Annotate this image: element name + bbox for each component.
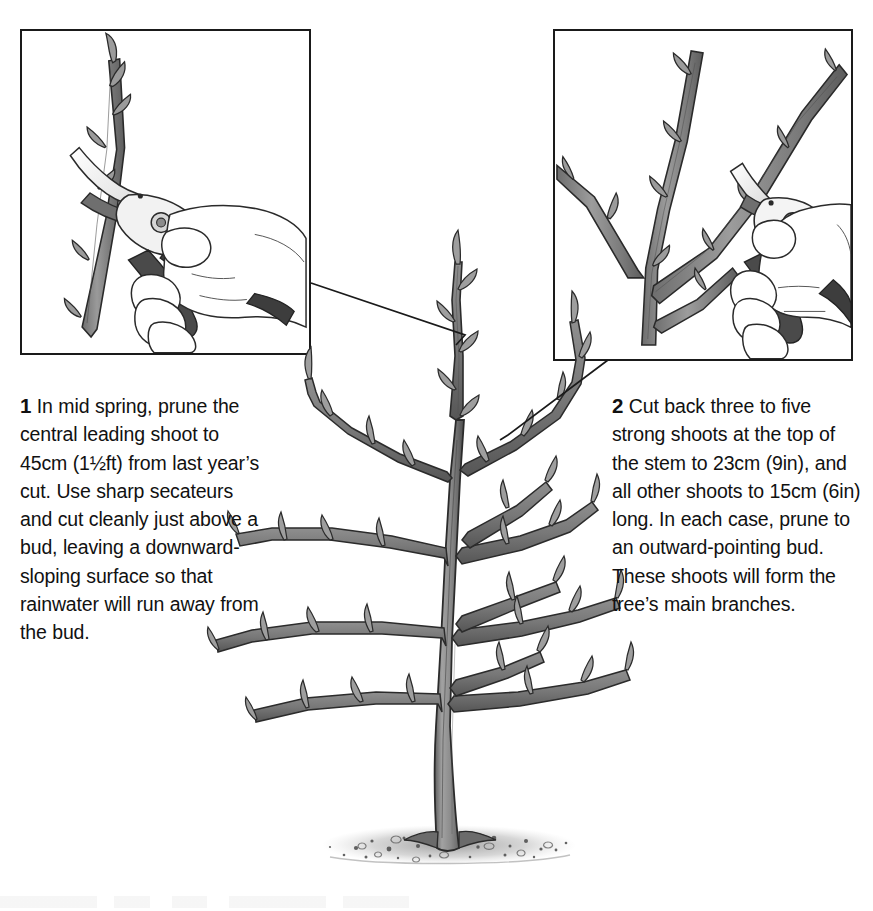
caption-step-2-number: 2 bbox=[612, 394, 623, 417]
caption-step-2: 2 Cut back three to five strong shoots a… bbox=[612, 392, 864, 618]
trunk bbox=[404, 420, 496, 851]
caption-step-1: 1 In mid spring, prune the central leadi… bbox=[20, 392, 270, 647]
left-lateral-branch bbox=[557, 165, 644, 277]
leader-line-left bbox=[311, 283, 465, 345]
lateral-branches bbox=[216, 320, 630, 722]
soil-mulch bbox=[322, 825, 576, 865]
caption-step-1-number: 1 bbox=[20, 394, 31, 417]
caption-step-2-text: Cut back three to five strong shoots at … bbox=[612, 395, 860, 615]
leader-line-right bbox=[500, 360, 608, 440]
inset-panel-step-2 bbox=[553, 29, 853, 361]
illustration-page: 1 In mid spring, prune the central leadi… bbox=[0, 0, 873, 911]
page-bottom-cutoff-text bbox=[0, 896, 440, 908]
central-leading-shoot bbox=[450, 262, 463, 420]
caption-step-1-text: In mid spring, prune the central leading… bbox=[20, 395, 259, 643]
inset-panel-step-1 bbox=[20, 29, 311, 355]
